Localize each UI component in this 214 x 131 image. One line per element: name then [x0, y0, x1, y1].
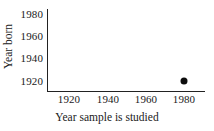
x-tick-1940: 1940 — [88, 94, 128, 105]
x-tick-1920: 1920 — [49, 94, 89, 105]
x-tick-1960: 1960 — [126, 94, 166, 105]
data-point — [181, 78, 188, 85]
x-tick-1980: 1980 — [164, 94, 204, 105]
scatter-chart-figure: 1980 1960 1940 1920 1920 1940 1960 1980 … — [0, 0, 214, 131]
x-axis-title: Year sample is studied — [0, 111, 214, 124]
y-axis-line — [47, 9, 48, 92]
x-axis-line — [47, 91, 205, 92]
y-axis-title: Year born — [2, 11, 15, 83]
